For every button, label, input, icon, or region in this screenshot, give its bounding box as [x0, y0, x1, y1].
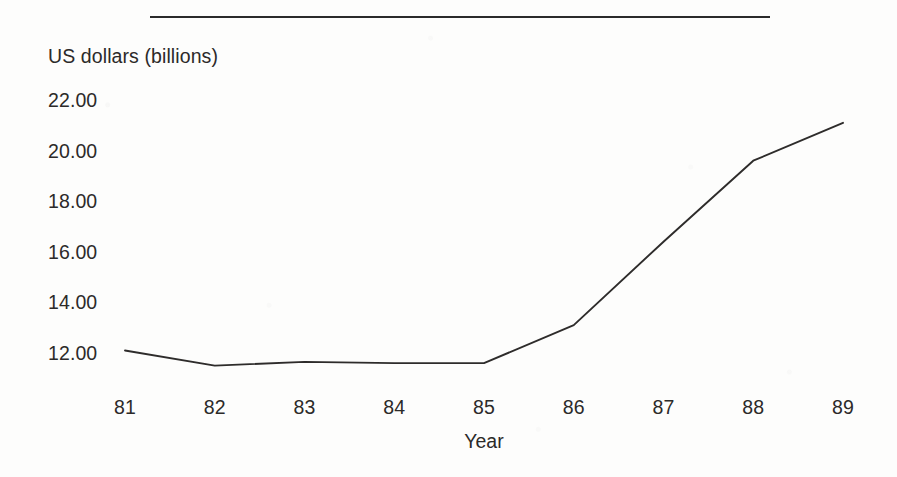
line-chart-figure: US dollars (billions) 22.00 20.00 18.00 …: [0, 0, 897, 477]
data-series-line: [125, 123, 843, 366]
plot-area: [0, 0, 897, 477]
